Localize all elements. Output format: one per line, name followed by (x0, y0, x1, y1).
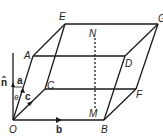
arrow-b-icon (56, 117, 62, 123)
label-O: O (9, 124, 17, 135)
label-b: b (56, 124, 62, 135)
label-n-hat: n̂ (1, 76, 7, 88)
parallelepiped-diagram: E G N A D C F M O B n̂ a c b θ (0, 0, 163, 140)
label-N: N (89, 28, 97, 39)
label-M: M (89, 108, 98, 119)
label-G: G (158, 13, 163, 24)
label-C: C (47, 80, 55, 91)
label-c: c (25, 91, 31, 102)
edge-FG (136, 24, 158, 89)
label-theta: θ (14, 93, 19, 102)
label-F: F (136, 89, 143, 100)
label-E: E (59, 11, 66, 22)
label-B: B (101, 124, 108, 135)
label-a: a (17, 75, 23, 86)
label-D: D (125, 58, 132, 69)
label-A: A (23, 50, 31, 61)
arrow-n-icon (11, 82, 15, 87)
